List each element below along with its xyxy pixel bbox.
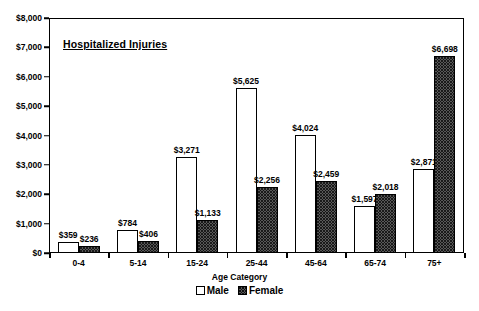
bar-female-25-44 <box>257 187 278 253</box>
bar-value-label: $6,698 <box>432 44 458 54</box>
bar-male-25-44 <box>236 88 257 253</box>
legend-item-female: Female <box>238 285 283 296</box>
bar-value-label: $2,871 <box>411 157 437 167</box>
bars-layer: $359$2360-4$784$4065-14$3,271$1,13315-24… <box>0 0 479 311</box>
bar-value-label: $3,271 <box>174 145 200 155</box>
chart-legend: Male Female <box>0 285 479 296</box>
bar-female-5-14 <box>138 241 159 253</box>
x-axis-title: Age Category <box>0 272 479 282</box>
x-tick-label: 15-24 <box>186 258 208 268</box>
bar-female-15-24 <box>197 220 218 253</box>
x-tick-label: 65-74 <box>364 258 386 268</box>
bar-male-45-64 <box>295 135 316 253</box>
legend-item-male: Male <box>196 285 229 296</box>
x-tick-label: 0-4 <box>72 258 84 268</box>
bar-value-label: $784 <box>118 218 137 228</box>
bar-male-15-24 <box>176 157 197 253</box>
bar-value-label: $1,597 <box>352 194 378 204</box>
bar-value-label: $5,625 <box>233 76 259 86</box>
bar-female-65-74 <box>375 194 396 253</box>
x-tick-label: 5-14 <box>129 258 146 268</box>
x-tick-mark <box>108 253 110 258</box>
x-tick-mark <box>286 253 288 258</box>
bar-value-label: $406 <box>139 229 158 239</box>
x-tick-label: 45-64 <box>305 258 327 268</box>
bar-female-0-4 <box>79 246 100 253</box>
bar-female-75+ <box>434 56 455 253</box>
bar-chart: Hospitalized Injuries $0$1,000$2,000$3,0… <box>0 0 479 311</box>
x-tick-mark <box>227 253 229 258</box>
bar-value-label: $4,024 <box>292 123 318 133</box>
bar-value-label: $236 <box>80 234 99 244</box>
x-tick-label: 75+ <box>427 258 441 268</box>
x-tick-mark <box>49 253 51 258</box>
bar-male-75+ <box>413 169 434 253</box>
x-tick-mark <box>405 253 407 258</box>
bar-male-65-74 <box>354 206 375 253</box>
legend-label-male: Male <box>207 285 229 296</box>
bar-female-45-64 <box>316 181 337 253</box>
bar-value-label: $2,018 <box>373 182 399 192</box>
legend-swatch-male-icon <box>196 286 205 295</box>
bar-value-label: $2,256 <box>254 175 280 185</box>
x-tick-mark <box>168 253 170 258</box>
x-tick-label: 25-44 <box>246 258 268 268</box>
x-tick-mark <box>464 253 466 258</box>
legend-swatch-female-icon <box>238 286 247 295</box>
x-tick-mark <box>345 253 347 258</box>
bar-value-label: $1,133 <box>195 208 221 218</box>
bar-value-label: $2,459 <box>313 169 339 179</box>
bar-value-label: $359 <box>59 230 78 240</box>
bar-male-5-14 <box>117 230 138 253</box>
legend-label-female: Female <box>249 285 283 296</box>
bar-male-0-4 <box>58 242 79 253</box>
